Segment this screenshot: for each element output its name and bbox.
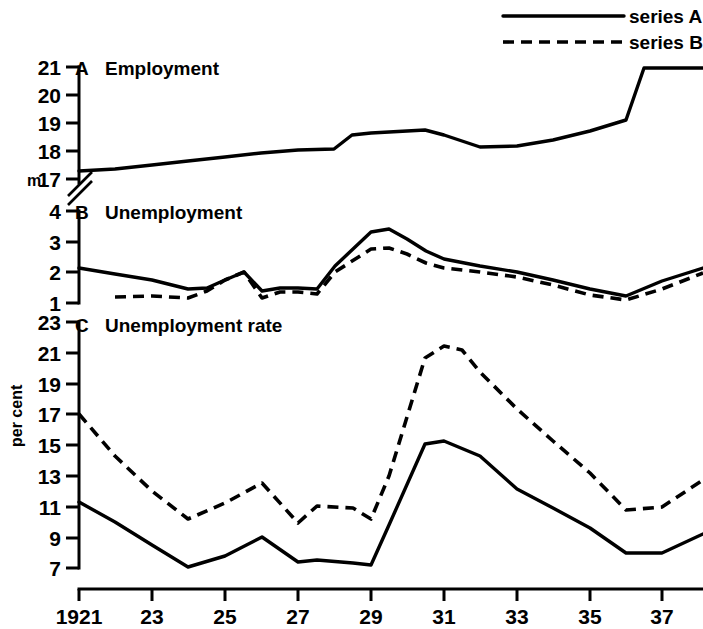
panel-b-ticklabel-3: 3 (49, 231, 61, 254)
x-ticklabel-37: 37 (650, 605, 673, 628)
panel-a-ticklabel-19: 19 (38, 112, 61, 135)
three-panel-line-chart: series A series B A Employment m. 21 20 … (0, 0, 703, 629)
x-ticklabel-31: 31 (432, 605, 456, 628)
panel-a-ticklabel-17: 17 (38, 168, 61, 191)
x-ticklabel-27: 27 (286, 605, 309, 628)
panel-c-letter: C (75, 315, 89, 336)
panel-c-ticklabel-7: 7 (49, 557, 61, 580)
panel-b-ticklabel-2: 2 (49, 261, 61, 284)
x-ticklabel-33: 33 (505, 605, 528, 628)
legend-label-series-a: series A (629, 6, 703, 27)
x-ticklabel-23: 23 (140, 605, 163, 628)
x-ticklabel-35: 35 (578, 605, 602, 628)
panel-a-ticklabel-18: 18 (38, 140, 62, 163)
panel-c-ticklabel-21: 21 (38, 342, 62, 365)
panel-c-ticklabel-15: 15 (38, 434, 62, 457)
panel-c-unit-label: per cent (8, 384, 25, 447)
panel-b-ticklabel-4: 4 (49, 200, 61, 223)
panel-a-ticklabel-20: 20 (38, 84, 61, 107)
panel-c-ticklabel-9: 9 (49, 527, 61, 550)
panel-c-ticklabel-23: 23 (38, 311, 61, 334)
panel-a-ticklabel-21: 21 (38, 56, 62, 79)
panel-a-title: Employment (105, 58, 220, 79)
x-ticklabel-1921: 1921 (56, 605, 103, 628)
x-axis-tick-labels: 1921 23 25 27 29 31 33 35 37 (56, 605, 674, 628)
panel-c-ticklabel-13: 13 (38, 465, 61, 488)
legend-label-series-b: series B (629, 32, 703, 53)
x-ticklabel-25: 25 (213, 605, 237, 628)
panel-c-ticklabel-19: 19 (38, 373, 61, 396)
panel-c-title: Unemployment rate (105, 315, 282, 336)
panel-b-title: Unemployment (105, 202, 243, 223)
panel-c-ticklabel-11: 11 (39, 496, 62, 519)
x-ticklabel-29: 29 (359, 605, 382, 628)
panel-c-ticklabel-17: 17 (38, 403, 61, 426)
figure-container: series A series B A Employment m. 21 20 … (0, 0, 703, 629)
